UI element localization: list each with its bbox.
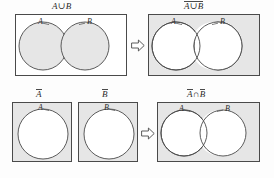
venn-complement-a-intersect-complement-b: [158, 103, 261, 163]
panel-a-union-b: A B: [15, 14, 127, 76]
venn-complement-a: [13, 103, 73, 163]
caption-complement-a-union-b: A∪B: [184, 1, 203, 11]
caption-intersect-symbol: ∩: [193, 89, 200, 99]
caption-a-union-b: A∪B: [52, 1, 71, 11]
caption-complement-b-text: B: [102, 89, 108, 99]
venn-complement-a-union-b: [149, 15, 261, 77]
hollow-right-arrow-icon-bottom: [141, 126, 155, 144]
caption-complement-b: B: [102, 89, 108, 99]
caption-complement-a: A: [36, 89, 42, 99]
circle-b: [61, 22, 109, 70]
circle-label-a: A: [179, 105, 184, 113]
arrow-glyph: [131, 39, 145, 52]
circle-label-b: B: [104, 104, 109, 112]
hollow-right-arrow-icon-top: [131, 38, 145, 56]
panel-complement-a: A: [12, 102, 72, 162]
circle-label-b: B: [225, 105, 230, 113]
circle-label-a: A: [38, 18, 43, 26]
figure-canvas: A∪B A B A∪B A B: [0, 0, 274, 178]
panel-complement-a-intersect-complement-b: A B: [157, 102, 260, 162]
venn-a-union-b: [16, 15, 128, 77]
panel-complement-b: B: [78, 102, 138, 162]
circle-label-a: A: [38, 104, 43, 112]
caption-complement-b-part: B: [200, 89, 206, 99]
circle-label-b: B: [220, 18, 225, 26]
circle-label-a: A: [171, 18, 176, 26]
panel-complement-a-union-b: A B: [148, 14, 260, 76]
caption-complement-a-text: A: [36, 89, 42, 99]
caption-a-union-b-text: A∪B: [52, 1, 71, 11]
circle-a: [18, 109, 68, 159]
circle-label-b: B: [87, 18, 92, 26]
venn-complement-b: [79, 103, 139, 163]
caption-complement-a-union-b-text: A∪B: [184, 1, 203, 11]
circle-a: [19, 22, 67, 70]
caption-complement-a-intersect-complement-b: A∩B: [187, 89, 205, 99]
circle-b: [84, 109, 134, 159]
arrow-glyph: [141, 127, 155, 140]
